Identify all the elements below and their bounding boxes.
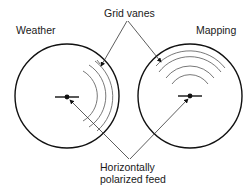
mapping-label: Mapping [196,24,236,36]
weather-feed-dot [65,95,70,100]
grid-vanes-leader-right [128,21,161,62]
mapping-grid-vanes [156,51,225,84]
grid-vanes-label: Grid vanes [104,7,155,19]
mapping-vane-3 [159,57,221,72]
mapping-feed-dot [188,94,193,99]
weather-grid-vanes [83,60,113,131]
feed-leader-left [70,100,129,159]
mapping-vane-1 [172,75,208,84]
weather-antenna [15,44,119,148]
weather-vane-1 [83,71,97,121]
feed-label-line2: polarized feed [100,173,166,185]
leader-lines [70,21,188,159]
weather-label: Weather [16,24,56,36]
grid-vanes-leader-left [101,21,127,66]
mapping-antenna [138,44,242,148]
feed-label-line1: Horizontally [100,161,155,173]
mapping-vane-2 [166,66,214,78]
